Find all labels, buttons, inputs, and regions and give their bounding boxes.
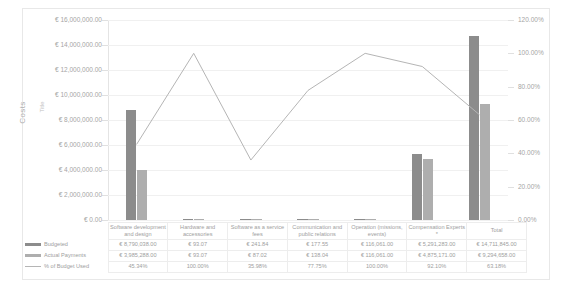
percent-line-series — [108, 20, 508, 220]
table-row: Actual Payments€ 3,985,288.00€ 93.07€ 87… — [23, 250, 527, 261]
left-axis-label: € 2,000,000.00 — [40, 191, 102, 198]
right-axis-label: 60.00% — [518, 116, 540, 123]
plot-area — [108, 20, 508, 220]
right-axis-label: 120.00% — [518, 16, 544, 23]
left-axis-label: € 6,000,000.00 — [40, 141, 102, 148]
legend-swatch-icon — [25, 254, 41, 257]
right-axis-label: 80.00% — [518, 83, 540, 90]
table-col-header: Software as a service fees — [228, 223, 288, 240]
legend-item-actual: Actual Payments — [23, 250, 108, 261]
left-axis-label: € 10,000,000.00 — [40, 91, 102, 98]
table-cell: € 5,291,283.00 — [407, 239, 467, 250]
table-cell: 100.00% — [168, 261, 228, 272]
table-cell: 100.00% — [347, 261, 407, 272]
table-col-header: Operation (missions, events) — [347, 223, 407, 240]
table-cell: € 177.55 — [287, 239, 347, 250]
table-cell: € 4,875,171.00 — [407, 250, 467, 261]
right-tick — [508, 20, 514, 21]
legend-label: Budgeted — [44, 241, 68, 247]
left-axis-label: € 12,000,000.00 — [40, 66, 102, 73]
left-tick — [102, 220, 108, 221]
table-cell: € 116,061.00 — [347, 250, 407, 261]
table-cell: € 8,790,038.00 — [108, 239, 168, 250]
right-tick — [508, 153, 514, 154]
right-axis-label: 40.00% — [518, 149, 540, 156]
table-row: % of Budget Used45.34%100.00%35.98%77.75… — [23, 261, 527, 272]
legend-item-budgeted: Budgeted — [23, 239, 108, 250]
right-axis-label: 20.00% — [518, 183, 540, 190]
table-cell: € 93.07 — [168, 250, 228, 261]
table-col-header: Software development and design — [108, 223, 168, 240]
table-cell: € 3,985,288.00 — [108, 250, 168, 261]
legend-swatch-icon — [25, 266, 41, 267]
chart-container: Costs Title € 0.00€ 2,000,000.00€ 4,000,… — [0, 0, 566, 294]
table-cell: € 14,711,845.00 — [467, 239, 527, 250]
left-axis-label: € 16,000,000.00 — [40, 16, 102, 23]
table-cell: € 241.84 — [228, 239, 288, 250]
right-tick — [508, 120, 514, 121]
left-axis-label: € 14,000,000.00 — [40, 41, 102, 48]
legend-swatch-icon — [25, 243, 41, 246]
gridline — [108, 220, 508, 221]
table-corner — [23, 223, 108, 240]
table-col-header: Communication and public relations — [287, 223, 347, 240]
legend-label: Actual Payments — [44, 252, 86, 258]
table-cell: € 9,294,658.00 — [467, 250, 527, 261]
table-cell: € 138.04 — [287, 250, 347, 261]
table-cell: € 93.07 — [168, 239, 228, 250]
right-tick — [508, 87, 514, 88]
right-axis-label: 100.00% — [518, 49, 544, 56]
y-axis-title-costs: Costs — [18, 83, 27, 143]
legend-item-line: % of Budget Used — [23, 261, 108, 272]
table-cell: € 87.02 — [228, 250, 288, 261]
table-cell: 77.75% — [287, 261, 347, 272]
left-axis-label: € 8,000,000.00 — [40, 116, 102, 123]
table-col-header: Hardware and accessories — [168, 223, 228, 240]
legend-label: % of Budget Used — [44, 263, 89, 269]
data-table: Software development and designHardware … — [23, 222, 527, 273]
table-col-header: Total — [467, 223, 527, 240]
table-cell: 63.18% — [467, 261, 527, 272]
table-cell: 35.98% — [228, 261, 288, 272]
table-cell: 45.34% — [108, 261, 168, 272]
right-tick — [508, 187, 514, 188]
right-tick — [508, 53, 514, 54]
left-axis-label: € 4,000,000.00 — [40, 166, 102, 173]
table-header-row: Software development and designHardware … — [23, 223, 527, 240]
table-cell: 92.10% — [407, 261, 467, 272]
table-cell: € 116,061.00 — [347, 239, 407, 250]
table-col-header: Compensation Experts * — [407, 223, 467, 240]
right-tick — [508, 220, 514, 221]
table-row: Budgeted€ 8,790,038.00€ 93.07€ 241.84€ 1… — [23, 239, 527, 250]
